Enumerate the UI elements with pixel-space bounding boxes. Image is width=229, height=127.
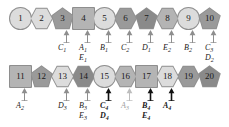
node-16[interactable]: 16: [115, 66, 136, 87]
node-fill-square: [73, 8, 94, 29]
label-subscript: 3: [84, 115, 87, 121]
node-17[interactable]: 17: [136, 66, 157, 87]
label-subscript: 1: [105, 47, 108, 53]
up-arrow-icon-b2: [189, 30, 196, 43]
node-15[interactable]: 15: [94, 66, 115, 87]
label-base: D: [100, 111, 106, 120]
label-c1: C1: [58, 44, 66, 52]
label-subscript: 1: [84, 57, 87, 63]
node-fill-square: [136, 66, 157, 87]
label-e2: E2: [163, 44, 171, 52]
node-11[interactable]: 11: [10, 66, 31, 87]
node-6[interactable]: 6: [115, 8, 136, 29]
up-arrow-icon-b4e4: [147, 88, 154, 101]
node-20[interactable]: 20: [199, 66, 220, 87]
label-c3: C3: [205, 44, 213, 52]
up-arrow-icon-c4d4: [105, 88, 112, 101]
label-base: D: [205, 53, 211, 62]
up-arrow-icon-c1: [63, 30, 70, 43]
label-subscript: 3: [64, 105, 67, 111]
up-arrow-icon-d3: [63, 88, 70, 101]
label-b1: B1: [100, 44, 108, 52]
up-arrow-icon-b1: [105, 30, 112, 43]
node-fill-circle: [10, 8, 31, 29]
label-subscript: 2: [211, 57, 214, 63]
up-arrow-icon-c3d2: [210, 30, 217, 43]
label-subscript: 1: [84, 47, 87, 53]
node-10[interactable]: 10: [199, 8, 220, 29]
up-arrow-icon-a3: [126, 88, 133, 101]
label-a2: A2: [16, 102, 24, 110]
label-d3: D3: [58, 102, 67, 110]
label-e4: E4: [142, 112, 150, 120]
up-arrow-icon-a4: [168, 88, 175, 101]
node-5[interactable]: 5: [94, 8, 115, 29]
node-fill-circle: [178, 8, 199, 29]
label-a4: A4: [163, 102, 171, 110]
label-b3: B3: [79, 102, 87, 110]
up-arrow-icon-e2: [168, 30, 175, 43]
label-subscript: 4: [168, 105, 171, 111]
label-e1: E1: [79, 54, 87, 62]
label-subscript: 1: [63, 47, 66, 53]
label-base: D: [58, 101, 64, 110]
label-d2: D2: [205, 54, 214, 62]
label-subscript: 1: [148, 47, 151, 53]
node-3[interactable]: 3: [52, 8, 73, 29]
node-14[interactable]: 14: [73, 66, 94, 87]
label-subscript: 4: [106, 115, 109, 121]
label-d4: D4: [100, 112, 109, 120]
node-9[interactable]: 9: [178, 8, 199, 29]
label-b2: B2: [184, 44, 192, 52]
label-base: D: [142, 43, 148, 52]
diagram-canvas: 12345678910C1A1E1B1C2D1E2B2C3D2111213141…: [0, 0, 229, 127]
node-7[interactable]: 7: [136, 8, 157, 29]
up-arrow-icon-a2: [21, 88, 28, 101]
node-13[interactable]: 13: [52, 66, 73, 87]
node-8[interactable]: 8: [157, 8, 178, 29]
up-arrow-icon-b3e3: [84, 88, 91, 101]
node-fill-circle: [94, 8, 115, 29]
node-4[interactable]: 4: [73, 8, 94, 29]
up-arrow-icon-d1: [147, 30, 154, 43]
node-2[interactable]: 2: [31, 8, 52, 29]
label-a1: A1: [79, 44, 87, 52]
label-a3: A3: [121, 102, 129, 110]
label-subscript: 2: [126, 47, 129, 53]
label-d1: D1: [142, 44, 151, 52]
label-subscript: 3: [84, 105, 87, 111]
label-subscript: 2: [168, 47, 171, 53]
label-subscript: 2: [189, 47, 192, 53]
label-subscript: 2: [21, 105, 24, 111]
node-19[interactable]: 19: [178, 66, 199, 87]
node-18[interactable]: 18: [157, 66, 178, 87]
node-fill-square: [10, 66, 31, 87]
label-c4: C4: [100, 102, 108, 110]
up-arrow-icon-c2: [126, 30, 133, 43]
label-subscript: 3: [126, 105, 129, 111]
up-arrow-icon-a1e1: [84, 30, 91, 43]
label-subscript: 4: [147, 105, 150, 111]
label-e3: E3: [79, 112, 87, 120]
node-1[interactable]: 1: [10, 8, 31, 29]
node-fill-circle: [94, 66, 115, 87]
label-c2: C2: [121, 44, 129, 52]
label-subscript: 4: [147, 115, 150, 121]
label-b4: B4: [142, 102, 150, 110]
node-12[interactable]: 12: [31, 66, 52, 87]
